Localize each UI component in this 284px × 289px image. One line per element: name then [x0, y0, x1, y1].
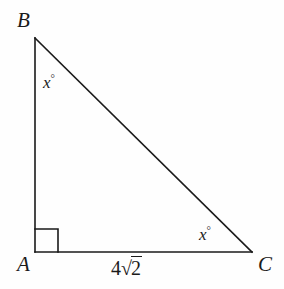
side-bc-hypotenuse-line [35, 38, 252, 252]
angle-c-variable: x [199, 225, 207, 244]
degree-symbol-icon: ° [51, 72, 55, 84]
side-ac-radicand: 2 [131, 256, 142, 279]
degree-symbol-icon: ° [207, 224, 211, 236]
right-angle-marker-icon [35, 229, 58, 252]
side-length-label-ac: 4√2 [111, 258, 142, 278]
side-ac-coefficient: 4 [111, 257, 121, 279]
triangle-drawing [0, 0, 284, 289]
geometry-figure: B A C x° x° 4√2 [0, 0, 284, 289]
vertex-label-a: A [17, 254, 30, 275]
vertex-label-b: B [17, 10, 30, 31]
angle-label-at-b: x° [43, 72, 55, 91]
angle-b-variable: x [43, 73, 51, 92]
vertex-label-c: C [258, 254, 272, 275]
angle-label-at-c: x° [199, 224, 211, 243]
